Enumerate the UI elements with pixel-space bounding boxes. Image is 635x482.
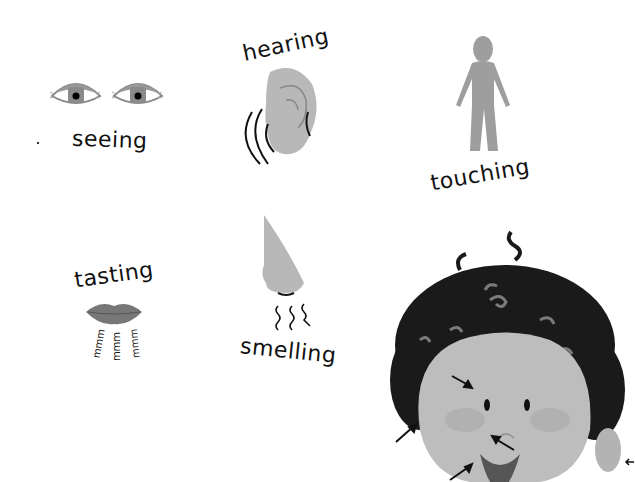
sense-label-hearing: hearing bbox=[240, 23, 331, 66]
eyes-icon bbox=[48, 76, 168, 112]
thumb bbox=[595, 428, 621, 472]
thumb-arrow bbox=[626, 459, 634, 465]
sense-label-seeing: seeing bbox=[72, 126, 148, 154]
sense-label-tasting: tasting bbox=[73, 257, 155, 293]
taste-sound-3: mmm bbox=[128, 328, 142, 358]
left-eye bbox=[484, 399, 490, 411]
nose-icon bbox=[260, 213, 310, 301]
sense-label-smelling: smelling bbox=[239, 333, 338, 368]
child-face-illustration bbox=[390, 240, 635, 482]
lips-icon bbox=[84, 300, 144, 326]
face bbox=[418, 333, 590, 482]
taste-sound-1: mmm bbox=[91, 328, 107, 359]
smell-waves-icon bbox=[272, 304, 316, 330]
ear-icon bbox=[240, 64, 320, 169]
person-icon bbox=[448, 35, 518, 155]
sense-label-touching: touching bbox=[429, 153, 532, 195]
taste-sound-2: mmm bbox=[111, 332, 122, 361]
right-eye bbox=[524, 399, 530, 411]
stray-dot bbox=[37, 142, 39, 144]
